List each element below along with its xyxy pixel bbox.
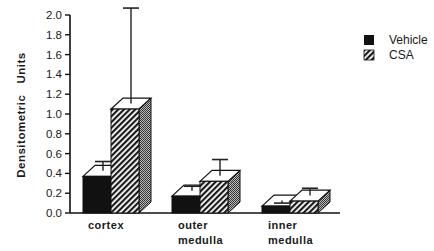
x-label-line2: medulla [268,234,313,246]
x-label: outer [178,219,208,231]
bar-chart: Densitometric Units 0.00.20.40.60.81.01.… [0,0,434,251]
x-label-line2: medulla [178,234,223,246]
legend-label-vehicle: Vehicle [389,33,428,47]
y-tick-label: 0.2 [46,187,62,199]
y-tick-label: 0.8 [46,128,62,140]
bars [83,8,330,213]
y-axis-label: Densitometric Units [15,52,27,178]
legend-label-csa: CSA [389,48,414,62]
y-tick-label: 2.0 [46,9,62,21]
y-tick-label: 1.2 [46,88,62,100]
bar-csa-2 [290,188,330,213]
legend: Vehicle CSA [364,33,428,62]
bar-csa-0 [111,8,151,213]
y-tick-label: 0.4 [46,167,63,179]
y-tick-label: 0.0 [46,207,62,219]
y-tick-label: 1.6 [46,49,62,61]
x-axis-labels: cortexoutermedullainnermedulla [88,219,313,246]
bar-csa-1 [200,160,240,213]
y-tick-label: 0.6 [46,148,62,160]
y-tick-label: 1.8 [46,29,62,41]
y-tick-label: 1.0 [46,108,62,120]
y-tick-label: 1.4 [46,68,63,80]
legend-swatch-vehicle [364,35,374,45]
legend-swatch-csa [364,50,374,60]
x-label: cortex [88,219,124,231]
x-label: inner [268,219,298,231]
